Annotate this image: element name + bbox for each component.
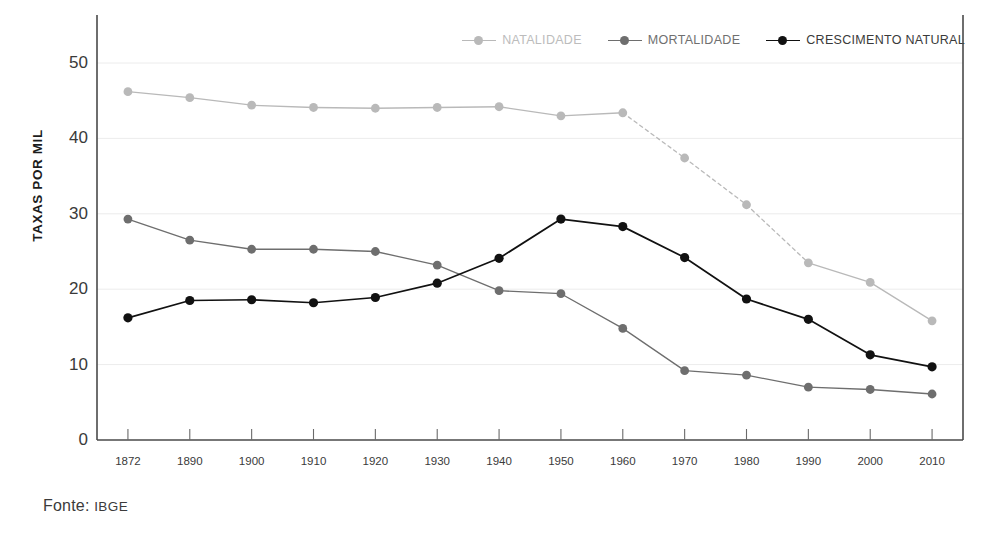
data-point xyxy=(557,289,566,298)
source-note-label: Fonte: xyxy=(43,497,90,514)
segment xyxy=(808,263,870,283)
segment xyxy=(685,371,747,376)
data-point xyxy=(680,154,689,163)
data-point xyxy=(618,222,627,231)
segment xyxy=(808,387,870,389)
segment xyxy=(747,299,809,319)
data-point xyxy=(557,111,566,120)
data-point xyxy=(433,103,442,112)
data-point xyxy=(804,383,813,392)
segment xyxy=(128,219,190,240)
data-point xyxy=(804,258,813,267)
segment xyxy=(499,219,561,258)
segment xyxy=(375,252,437,266)
data-point xyxy=(928,316,937,325)
segment xyxy=(252,105,314,107)
segment xyxy=(623,113,685,158)
data-point xyxy=(124,87,133,96)
data-point xyxy=(247,295,256,304)
segment xyxy=(437,107,499,108)
source-note-value: IBGE xyxy=(94,499,128,514)
data-point xyxy=(185,236,194,245)
data-point xyxy=(680,253,689,262)
data-point xyxy=(371,247,380,256)
segment xyxy=(128,92,190,98)
segment xyxy=(623,227,685,258)
birth-death-rate-chart: NATALIDADE MORTALIDADE CRESCIMENTO NATUR… xyxy=(0,0,992,538)
data-point xyxy=(185,93,194,102)
segment xyxy=(437,265,499,291)
data-point xyxy=(618,108,627,117)
data-point xyxy=(556,214,565,223)
segment xyxy=(685,258,747,299)
data-point xyxy=(371,104,380,113)
data-point xyxy=(247,101,256,110)
segment xyxy=(190,98,252,106)
segment xyxy=(437,258,499,283)
data-point xyxy=(371,293,380,302)
data-point xyxy=(927,362,936,371)
segment xyxy=(870,282,932,320)
segment xyxy=(190,300,252,301)
data-point xyxy=(309,245,318,254)
data-point xyxy=(866,385,875,394)
data-point xyxy=(433,279,442,288)
data-point xyxy=(123,313,132,322)
axis-frame xyxy=(97,15,963,440)
data-point xyxy=(618,324,627,333)
segment xyxy=(190,240,252,249)
segment xyxy=(128,301,190,318)
data-point xyxy=(494,254,503,263)
segment xyxy=(685,158,747,205)
segment xyxy=(561,113,623,116)
segment xyxy=(499,291,561,294)
data-point xyxy=(433,261,442,270)
data-point xyxy=(124,215,133,224)
series-mortalidade xyxy=(124,215,937,399)
segment xyxy=(314,297,376,302)
gridlines xyxy=(97,63,963,365)
data-point xyxy=(804,315,813,324)
data-point xyxy=(742,371,751,380)
segment xyxy=(252,300,314,303)
source-note: Fonte: IBGE xyxy=(43,497,128,515)
segment xyxy=(314,107,376,108)
plot-area xyxy=(0,0,992,538)
data-point xyxy=(247,245,256,254)
segment xyxy=(747,375,809,387)
segment xyxy=(808,319,870,354)
segment xyxy=(375,107,437,108)
data-point xyxy=(495,102,504,111)
data-point xyxy=(928,390,937,399)
series-crescimento-natural xyxy=(123,214,936,371)
segment xyxy=(314,249,376,251)
segment xyxy=(499,107,561,116)
data-point xyxy=(680,366,689,375)
segment xyxy=(375,283,437,297)
data-point xyxy=(742,294,751,303)
segment xyxy=(870,389,932,394)
data-point xyxy=(309,103,318,112)
data-point xyxy=(866,278,875,287)
data-point xyxy=(495,286,504,295)
data-point xyxy=(742,200,751,209)
segment xyxy=(561,294,623,329)
data-point xyxy=(309,298,318,307)
data-point xyxy=(866,350,875,359)
segment xyxy=(561,219,623,227)
data-point xyxy=(185,296,194,305)
